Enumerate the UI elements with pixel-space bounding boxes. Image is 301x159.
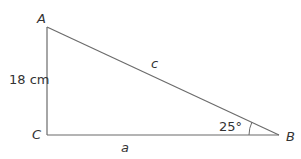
angle-b-label: 25° — [219, 120, 242, 133]
side-ab-label: c — [151, 57, 158, 70]
side-ab — [47, 27, 279, 135]
angle-b-arc — [249, 122, 252, 135]
vertex-c-label: C — [32, 128, 41, 141]
vertex-b-label: B — [286, 130, 295, 143]
vertex-a-label: A — [37, 12, 46, 25]
side-ac-label: 18 cm — [9, 73, 50, 86]
side-cb-label: a — [121, 141, 129, 154]
